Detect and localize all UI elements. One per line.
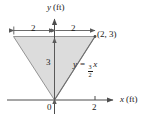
dimension-label-left-width: 2 (31, 24, 36, 33)
point-label-2-3: (2, 3) (97, 30, 117, 39)
equation-equals: = (80, 59, 85, 69)
point-marker-2-3 (94, 35, 97, 38)
origin-label: 0 (47, 103, 52, 112)
equation-lhs: y (73, 59, 77, 69)
x-axis-label-unit: (ft) (126, 94, 138, 104)
y-axis-label-var: y (47, 2, 51, 12)
equation-variable: x (93, 59, 97, 69)
x-axis-label-var: x (120, 94, 124, 104)
dimension-label-height: 3 (46, 58, 51, 67)
x-axis-label: x(ft) (120, 95, 138, 104)
figure-container: y(ft) x(ft) 0 2 2 2 3 (2, 3) y=32x (0, 0, 149, 124)
y-axis-label-unit: (ft) (53, 2, 65, 12)
dimension-label-right-width: 2 (71, 24, 76, 33)
x-tick-label-2: 2 (92, 103, 97, 112)
equation-fraction: 32 (88, 64, 93, 78)
equation-denominator: 2 (88, 71, 93, 78)
x-axis (7, 96, 113, 100)
y-axis-label: y(ft) (47, 3, 65, 12)
equation-label: y=32x (73, 60, 97, 78)
